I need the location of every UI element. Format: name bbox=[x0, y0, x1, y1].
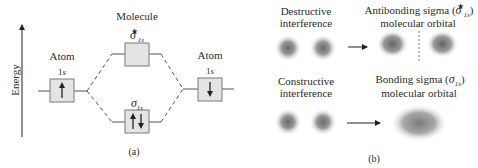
left-atom-orbital-label: 1s bbox=[58, 66, 66, 78]
bonding-sigma-label: σ1s bbox=[131, 96, 143, 112]
right-atom-orbital-label: 1s bbox=[206, 65, 214, 77]
antibonding-title-line2: molecular orbital bbox=[380, 17, 455, 29]
left-atom-level bbox=[38, 79, 87, 102]
antibonding-sigma-label: σ★1s bbox=[130, 27, 144, 44]
bonding-orbital-cloud bbox=[390, 104, 448, 142]
destructive-line2: interference bbox=[280, 17, 333, 29]
constructive-line1: Constructive bbox=[278, 75, 334, 87]
caption-a: (a) bbox=[128, 146, 139, 158]
right-atom-label: Atom bbox=[197, 49, 222, 61]
constructive-line2: interference bbox=[280, 87, 333, 99]
destructive-atomic-orbitals bbox=[274, 34, 337, 62]
antibonding-orbital-lobes bbox=[378, 30, 460, 62]
bonding-level bbox=[112, 110, 161, 133]
energy-axis-label: Energy bbox=[9, 64, 21, 96]
left-atom-label: Atom bbox=[49, 50, 74, 62]
bonding-title-line2: molecular orbital bbox=[381, 87, 456, 99]
molecule-label: Molecule bbox=[116, 10, 158, 22]
destructive-line1: Destructive bbox=[281, 5, 332, 17]
antibonding-level bbox=[112, 43, 161, 66]
constructive-atomic-orbitals bbox=[274, 108, 337, 136]
caption-b: (b) bbox=[368, 153, 380, 165]
right-atom-level bbox=[183, 78, 234, 101]
